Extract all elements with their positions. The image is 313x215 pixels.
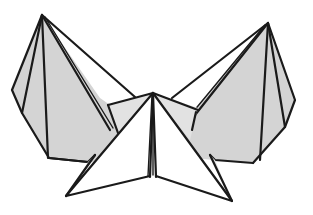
origami-figure <box>0 0 313 215</box>
origami-diagram <box>0 0 313 215</box>
